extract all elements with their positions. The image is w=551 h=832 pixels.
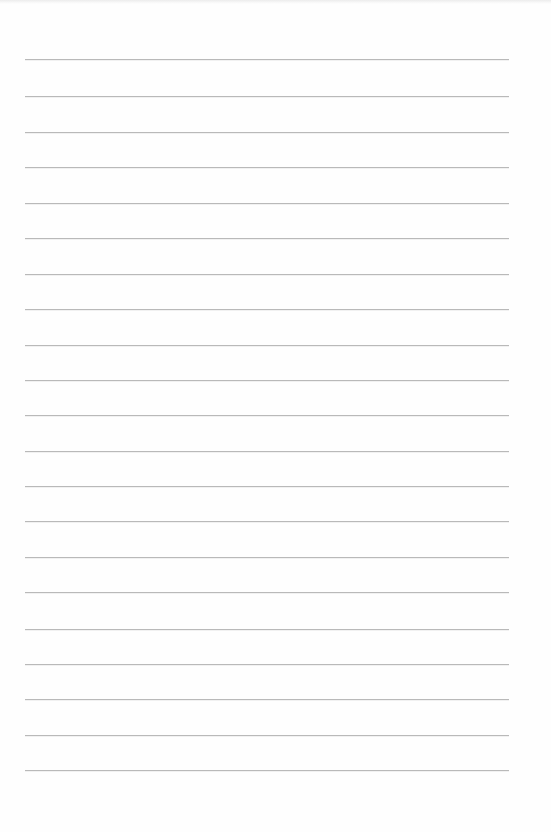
ruled-line <box>25 167 509 168</box>
ruled-line <box>25 309 509 310</box>
ruled-line <box>25 592 509 593</box>
ruled-line <box>25 274 509 275</box>
ruled-line <box>25 699 509 700</box>
ruled-line <box>25 735 509 736</box>
ruled-line <box>25 521 509 522</box>
ruled-line <box>25 664 509 665</box>
ruled-line <box>25 557 509 558</box>
ruled-line <box>25 770 509 771</box>
ruled-line <box>25 451 509 452</box>
ruled-line <box>25 380 509 381</box>
ruled-line <box>25 629 509 630</box>
ruled-line <box>25 59 509 60</box>
page-top-edge <box>0 0 551 4</box>
ruled-line <box>25 203 509 204</box>
ruled-line <box>25 238 509 239</box>
lined-paper-page <box>0 0 551 832</box>
ruled-line <box>25 486 509 487</box>
ruled-line <box>25 132 509 133</box>
ruled-line <box>25 96 509 97</box>
ruled-line <box>25 345 509 346</box>
ruled-line <box>25 415 509 416</box>
